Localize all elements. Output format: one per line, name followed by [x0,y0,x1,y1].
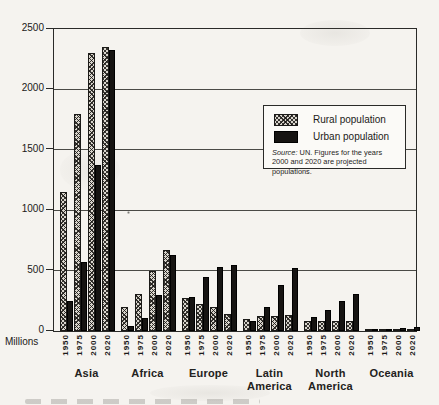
bar-rural-europe-2020 [224,314,231,331]
bar-urban-asia-1975 [81,262,87,331]
legend-label-rural: Rural population [313,114,386,125]
legend-swatch-rural-hatched [274,114,298,126]
bar-rural-asia-2000 [88,53,95,331]
bar-rural-latin-america-2020 [285,315,292,331]
bar-urban-asia-2020 [109,50,115,331]
year-tick-label-oceania-1975: 1975 [380,334,389,356]
y-tick-label-500: 500 [0,264,44,276]
year-tick-label-latin-america-2020: 2020 [286,334,295,356]
year-tick-label-europe-2020: 2020 [225,334,234,356]
year-tick-label-latin-america-1975: 1975 [258,334,267,356]
bar-rural-north-america-1975 [318,321,325,331]
bar-urban-oceania-2000 [400,328,406,331]
bar-rural-africa-2000 [149,271,156,331]
bar-urban-oceania-1975 [386,329,392,331]
bar-urban-europe-2020 [231,265,237,331]
bar-rural-oceania-2000 [393,329,400,331]
scan-dot-artifact [127,211,130,214]
category-label-oceania: Oceania [350,367,434,380]
legend-entry-rural: Rural population [274,112,405,127]
legend-label-urban: Urban population [313,131,389,142]
year-tick-label-asia-1950: 1950 [61,334,70,356]
year-tick-label-oceania-2020: 2020 [408,334,417,356]
y-tick-label-0: 0 [0,324,44,336]
bar-urban-africa-2000 [156,295,162,331]
bar-urban-north-america-1975 [325,310,331,331]
bar-rural-asia-1950 [60,192,67,331]
legend-box: Rural population Urban population Source… [263,105,406,169]
year-tick-label-europe-1950: 1950 [183,334,192,356]
bar-rural-africa-2020 [163,250,170,331]
bar-rural-asia-1975 [74,114,81,331]
bar-urban-africa-2020 [170,255,176,331]
y-tick-mark [46,88,53,89]
year-tick-label-north-america-2020: 2020 [347,334,356,356]
year-tick-label-europe-1975: 1975 [197,334,206,356]
y-tick-mark [46,330,53,331]
year-tick-label-asia-2020: 2020 [103,334,112,356]
bar-urban-europe-1950 [189,297,195,331]
bar-urban-africa-1950 [128,326,134,331]
year-tick-label-africa-2020: 2020 [164,334,173,356]
scanned-population-bar-chart: Millions Rural population Urban populati… [0,0,439,405]
bar-rural-oceania-1975 [379,329,386,331]
y-tick-label-2500: 2500 [0,22,44,34]
bar-rural-north-america-1950 [304,321,311,331]
bar-rural-europe-2000 [210,307,217,331]
bar-urban-north-america-1950 [311,317,317,331]
bar-urban-oceania-1950 [372,329,378,331]
bar-urban-latin-america-2000 [278,285,284,331]
bar-rural-oceania-2020 [407,329,414,331]
y-tick-mark [46,28,53,29]
bar-urban-europe-1975 [203,277,209,331]
bar-urban-latin-america-1950 [250,321,256,331]
year-tick-label-north-america-1950: 1950 [305,334,314,356]
bar-urban-north-america-2020 [353,294,359,331]
year-tick-label-oceania-2000: 2000 [394,334,403,356]
bar-rural-asia-2020 [102,47,109,331]
legend-entry-urban: Urban population [274,129,405,144]
bar-urban-africa-1975 [142,318,148,331]
bar-urban-north-america-2000 [339,301,345,331]
plot-area [53,28,417,332]
bar-urban-oceania-2020 [414,327,420,331]
y-tick-label-2000: 2000 [0,82,44,94]
bar-rural-north-america-2000 [332,321,339,331]
bar-rural-oceania-1950 [365,329,372,331]
year-tick-label-north-america-2000: 2000 [333,334,342,356]
cropped-caption-remnant [25,399,260,404]
y-axis-unit-label: Millions [5,336,38,347]
bar-rural-africa-1975 [135,294,142,331]
y-tick-label-1500: 1500 [0,143,44,155]
year-tick-label-europe-2000: 2000 [211,334,220,356]
year-tick-label-africa-2000: 2000 [150,334,159,356]
year-tick-label-africa-1975: 1975 [136,334,145,356]
bar-rural-latin-america-2000 [271,316,278,331]
year-tick-label-oceania-1950: 1950 [366,334,375,356]
bar-urban-europe-2000 [217,267,223,331]
y-tick-label-1000: 1000 [0,203,44,215]
bar-rural-latin-america-1950 [243,319,250,331]
year-tick-label-latin-america-2000: 2000 [272,334,281,356]
year-tick-label-asia-1975: 1975 [75,334,84,356]
year-tick-label-africa-1950: 1950 [122,334,131,356]
bar-urban-latin-america-1975 [264,307,270,331]
source-note-prefix: Source: [272,148,297,157]
legend-swatch-urban-solid [274,131,298,143]
bar-rural-europe-1975 [196,304,203,331]
y-tick-mark [46,148,53,149]
year-tick-label-asia-2000: 2000 [89,334,98,356]
bar-urban-asia-2000 [95,165,101,331]
bar-rural-latin-america-1975 [257,316,264,331]
bar-urban-latin-america-2020 [292,268,298,331]
y-tick-mark [46,209,53,210]
bar-rural-africa-1950 [121,307,128,331]
bar-rural-north-america-2020 [346,321,353,331]
y-tick-mark [46,269,53,270]
legend-source-note: Source: UN. Figures for the years 2000 a… [272,148,400,176]
bar-rural-europe-1950 [182,298,189,331]
year-tick-label-north-america-1975: 1975 [319,334,328,356]
bar-urban-asia-1950 [67,301,73,331]
year-tick-label-latin-america-1950: 1950 [244,334,253,356]
